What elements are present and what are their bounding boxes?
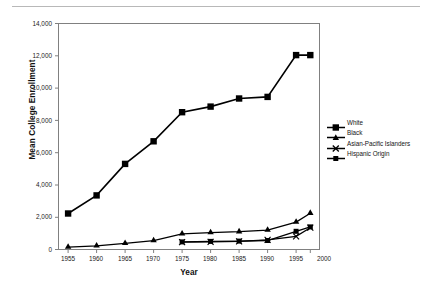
legend-entry-white: White <box>327 117 431 127</box>
series-asian-pacific-islanders <box>179 225 313 245</box>
legend-marker-cross-icon <box>327 139 345 148</box>
legend-label-asian-pacific-islanders: Asian-Pacific Islanders <box>345 140 410 147</box>
legend-marker-triangle-icon <box>327 128 345 137</box>
y-axis-ticks <box>55 24 59 250</box>
legend-label-black: Black <box>345 129 362 136</box>
legend-marker-square-icon <box>327 118 345 127</box>
x-axis-ticks <box>68 250 310 254</box>
legend-label-hispanic-origin: Hispanic Origin <box>345 150 389 157</box>
legend-entry-asian-pacific-islanders: Asian-Pacific Islanders <box>327 138 431 148</box>
legend-marker-small-square-icon <box>327 149 345 158</box>
chart-area: Mean College Enrollment Year 14,000 12,0… <box>0 0 432 287</box>
legend-label-white: White <box>345 119 363 126</box>
series-black <box>65 209 314 249</box>
axes-frame <box>59 24 320 250</box>
series-white <box>65 52 314 217</box>
legend-entry-hispanic-origin: Hispanic Origin <box>327 149 431 159</box>
legend-entry-black: Black <box>327 128 431 138</box>
figure-container: Mean College Enrollment Year 14,000 12,0… <box>0 0 432 287</box>
chart-legend: White Black <box>327 117 431 159</box>
